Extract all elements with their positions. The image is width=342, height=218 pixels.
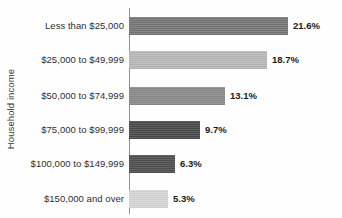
category-label: $100,000 to $149,999 <box>24 155 124 173</box>
bar[interactable] <box>129 190 168 208</box>
bar[interactable] <box>129 51 267 69</box>
bar-chart: Household income Less than $25,000 21.6%… <box>0 0 342 218</box>
value-label: 9.7% <box>205 121 227 139</box>
category-label: Less than $25,000 <box>24 17 124 35</box>
value-label: 13.1% <box>230 87 257 105</box>
bar-row: $50,000 to $74,999 13.1% <box>0 87 342 105</box>
bar[interactable] <box>129 121 200 139</box>
value-label: 6.3% <box>180 155 202 173</box>
value-label: 21.6% <box>293 17 320 35</box>
category-label: $50,000 to $74,999 <box>24 87 124 105</box>
bar-row: $75,000 to $99,999 9.7% <box>0 121 342 139</box>
bar-row: $150,000 and over 5.3% <box>0 190 342 208</box>
value-label: 18.7% <box>272 51 299 69</box>
value-label: 5.3% <box>173 190 195 208</box>
category-label: $25,000 to $49,999 <box>24 51 124 69</box>
bar[interactable] <box>129 155 175 173</box>
plot-area: Less than $25,000 21.6% $25,000 to $49,9… <box>0 0 342 218</box>
bar-row: $100,000 to $149,999 6.3% <box>0 155 342 173</box>
bar-row: Less than $25,000 21.6% <box>0 17 342 35</box>
category-label: $75,000 to $99,999 <box>24 121 124 139</box>
bar[interactable] <box>129 87 225 105</box>
bar[interactable] <box>129 17 288 35</box>
category-label: $150,000 and over <box>24 190 124 208</box>
bar-row: $25,000 to $49,999 18.7% <box>0 51 342 69</box>
